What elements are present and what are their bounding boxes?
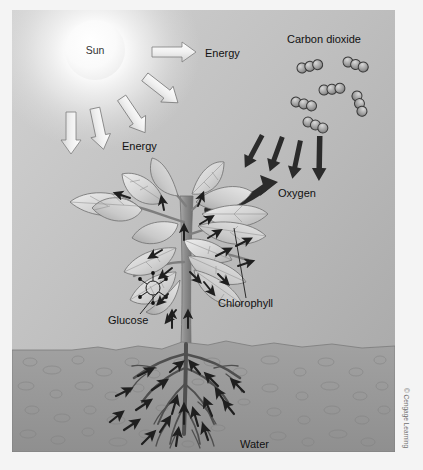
- label-energy-top: Energy: [205, 47, 240, 59]
- label-water: Water: [240, 438, 269, 450]
- label-energy-lower: Energy: [122, 140, 157, 152]
- label-oxygen: Oxygen: [278, 187, 316, 199]
- soil-group: [12, 341, 395, 452]
- label-sun: Sun: [86, 44, 105, 56]
- co2-molecule: [319, 83, 346, 96]
- label-glucose: Glucose: [108, 314, 148, 326]
- soil-body: [12, 341, 395, 452]
- figure-root: Sun: [0, 0, 423, 470]
- label-chlorophyll: Chlorophyll: [218, 297, 273, 309]
- plant-stem: [180, 196, 193, 345]
- copyright-text: © Cengage Learning: [403, 388, 410, 448]
- photosynthesis-illustration: Sun: [12, 10, 395, 452]
- copyright-credit: © Cengage Learning: [399, 378, 413, 458]
- label-carbon-dioxide: Carbon dioxide: [287, 33, 361, 45]
